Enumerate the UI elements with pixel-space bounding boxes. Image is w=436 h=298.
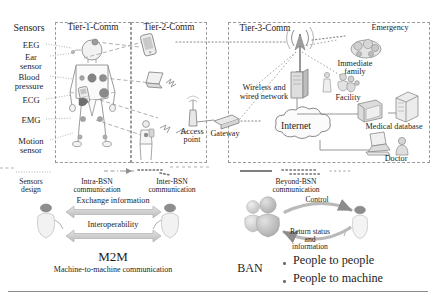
legend-label-inter-bsn: Inter-BSN communication — [148, 178, 195, 193]
label-facility: Facility — [335, 94, 360, 102]
label-wireless-wired-network: Wireless and wired network — [240, 84, 289, 101]
label-gateway: Gateway — [210, 130, 239, 138]
ban-bullet-marker-2 — [283, 280, 286, 283]
m2m-arrow-top-label: Exchange information — [77, 197, 150, 205]
ban-bullet-people-to-people: People to people — [293, 254, 374, 266]
legend-label-intra-bsn: Intra-BSN communication — [73, 178, 120, 193]
label-internet: Internet — [281, 121, 311, 131]
label-access-point: Access point — [180, 128, 203, 145]
ban-arrow-top-label: Control — [305, 196, 328, 204]
m2m-arrow-bottom-label: Interoperability — [88, 221, 139, 229]
ban-arrow-bottom-label: Return status and information — [290, 228, 330, 251]
ban-title: BAN — [237, 262, 262, 274]
footer-rule — [8, 291, 428, 292]
m2m-title: M2M — [98, 250, 128, 263]
label-emergency: Emergency — [371, 24, 408, 32]
legend-label-sensors-design: Sensors design — [19, 178, 43, 193]
label-immediate-family: Immediate family — [337, 60, 372, 77]
label-doctor: Doctor — [385, 155, 408, 163]
ban-bullet-people-to-machine: People to machine — [293, 272, 383, 284]
m2m-subtitle: Machine-to-machine communication — [54, 266, 172, 274]
legend-label-beyond-bsn: Beyond-BSN communication — [272, 178, 319, 193]
label-medical-database: Medical database — [365, 123, 422, 131]
ban-bullet-marker — [283, 262, 286, 265]
figure-canvas: Sensors Tier-1-Comm Tier-2-Comm Tier-3-C… — [0, 0, 436, 298]
